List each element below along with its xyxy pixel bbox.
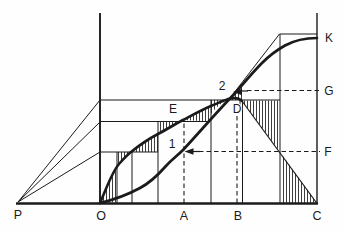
arrow1-head <box>185 148 194 154</box>
label-b: B <box>234 209 242 223</box>
fan-line-bottom <box>18 152 100 202</box>
label-point2: 2 <box>219 79 226 93</box>
fan-line-middle <box>18 122 100 202</box>
integration-diagram-figure: P O A B C E D 1 2 F G K <box>0 0 345 234</box>
hatch-region-triangle-above <box>244 101 280 153</box>
label-p: P <box>14 208 22 222</box>
fan-line-top <box>18 100 100 202</box>
label-a: A <box>180 209 189 223</box>
label-e: E <box>169 102 177 116</box>
label-o: O <box>96 209 106 223</box>
label-d: D <box>233 102 242 116</box>
label-f: F <box>324 145 331 159</box>
hatch-regions <box>101 86 317 203</box>
label-c: C <box>312 209 321 223</box>
label-g: G <box>324 84 333 98</box>
diagram-canvas: P O A B C E D 1 2 F G K <box>0 0 345 234</box>
label-point1: 1 <box>169 137 176 151</box>
tangent-line-k <box>230 34 280 98</box>
label-k: K <box>325 31 333 45</box>
